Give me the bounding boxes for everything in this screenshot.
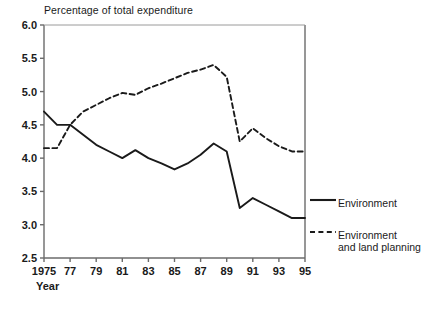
y-axis-tick-label: 4.5	[22, 119, 37, 131]
series-line-1	[44, 112, 305, 219]
x-axis-tick-label: 1975	[32, 265, 56, 277]
series-line-2	[44, 65, 305, 152]
x-axis-tick-label: 81	[116, 265, 128, 277]
legend-label: Environment and land planning	[338, 229, 421, 253]
y-axis-tick-label: 4.0	[22, 152, 37, 164]
y-axis-tick-label: 5.0	[22, 86, 37, 98]
y-axis-tick-label: 5.5	[22, 52, 37, 64]
x-axis-tick-label: 91	[247, 265, 259, 277]
x-axis-tick-label: 95	[299, 265, 311, 277]
x-axis-tick-label: 83	[142, 265, 154, 277]
y-axis-tick-label: 3.5	[22, 185, 37, 197]
x-axis-tick-label: 89	[221, 265, 233, 277]
x-axis-tick-label: 93	[273, 265, 285, 277]
y-axis-tick-label: 3.0	[22, 219, 37, 231]
x-axis-tick-label: 79	[90, 265, 102, 277]
y-axis-tick-label: 6.0	[22, 19, 37, 31]
x-axis-label: Year	[36, 280, 59, 292]
y-axis-tick-label: 2.5	[22, 252, 37, 264]
x-axis-tick-label: 85	[168, 265, 180, 277]
x-axis-tick-label: 87	[194, 265, 206, 277]
x-axis-tick-label: 77	[64, 265, 76, 277]
legend-label: Environment	[338, 197, 397, 209]
